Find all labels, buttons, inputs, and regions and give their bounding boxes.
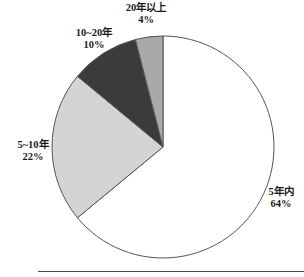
pie-label-10-to-20-years: 10~20年 10% [54,27,134,51]
pie-label-10-to-20-years-value: 10% [54,39,134,51]
pie-label-within-5-years: 5年内 64% [258,186,304,210]
pie-label-5-to-10-years: 5~10年 22% [0,139,66,163]
pie-label-within-5-years-name: 5年内 [258,186,304,198]
pie-label-over-20-years-name: 20年以上 [104,2,188,14]
pie-label-over-20-years-value: 4% [104,14,188,26]
pie-chart-figure: 20年以上 4% 10~20年 10% 5~10年 22% 5年内 64% [0,0,304,277]
pie-label-within-5-years-value: 64% [258,198,304,210]
pie-label-5-to-10-years-name: 5~10年 [0,139,66,151]
pie-label-10-to-20-years-name: 10~20年 [54,27,134,39]
pie-label-over-20-years: 20年以上 4% [104,2,188,26]
pie-label-5-to-10-years-value: 22% [0,151,66,163]
bottom-divider-rule [38,271,304,272]
